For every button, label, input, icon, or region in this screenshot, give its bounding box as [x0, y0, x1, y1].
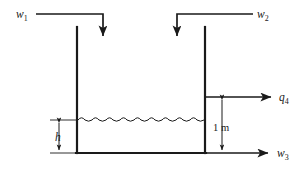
- inlet-w1-arrow-path: [36, 14, 103, 36]
- outlet-q4-subscript: 4: [285, 97, 289, 106]
- outlet-q4-label: q4: [279, 91, 289, 106]
- dimension-h: h: [50, 120, 78, 153]
- dimension-h-label: h: [55, 131, 61, 143]
- water-surface: [78, 118, 204, 121]
- inlet-w1-subscript: 1: [24, 14, 28, 23]
- outlet-w3-subscript: 3: [285, 153, 289, 162]
- dimension-one-meter: 1 m: [213, 100, 229, 150]
- outlet-stream-w3: w3: [206, 147, 289, 162]
- inlet-w1-label: w1: [16, 8, 28, 23]
- inlet-w2-arrow-path: [177, 14, 253, 36]
- inlet-stream-w1: w1: [16, 8, 103, 36]
- tank-vessel: [76, 27, 206, 153]
- tank-diagram-canvas: w1 w2 q4 w3 h 1 m: [0, 0, 301, 170]
- water-surface-wavy-line: [78, 118, 204, 121]
- outlet-stream-q4: q4: [205, 91, 289, 106]
- tank-diagram: w1 w2 q4 w3 h 1 m: [0, 0, 301, 170]
- inlet-w2-label: w2: [257, 8, 269, 23]
- outlet-w3-label: w3: [277, 147, 289, 162]
- dimension-one-meter-label: 1 m: [213, 122, 229, 133]
- inlet-stream-w2: w2: [177, 8, 269, 36]
- inlet-w2-subscript: 2: [265, 14, 269, 23]
